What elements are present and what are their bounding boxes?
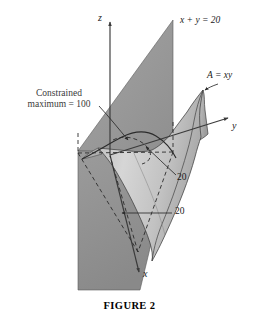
z-axis-label: z: [98, 12, 102, 24]
tick-label-x-20: 20: [175, 206, 185, 217]
y-axis-label: y: [232, 120, 236, 132]
tick-label-y-20: 20: [177, 172, 187, 183]
constrained-maximum-line1: Constrained: [36, 88, 82, 98]
x-axis-label: x: [143, 268, 147, 280]
figure-caption: FIGURE 2: [0, 300, 259, 311]
figure-graphic: [0, 0, 259, 331]
constrained-maximum-annotation: Constrained maximum = 100: [18, 88, 100, 110]
leader-surface-label: [205, 84, 218, 90]
surface-equation-label: A = xy: [207, 70, 232, 81]
constraint-plane-upper: [78, 20, 173, 152]
constrained-maximum-line2: maximum = 100: [28, 99, 91, 109]
constraint-plane-label: x + y = 20: [180, 15, 220, 26]
figure-container: z y x x + y = 20 A = xy Constrained maxi…: [0, 0, 259, 331]
